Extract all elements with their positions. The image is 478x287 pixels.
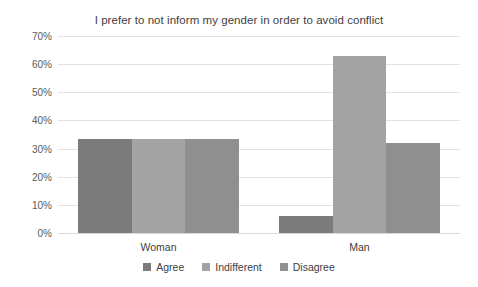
x-axis-label-woman: Woman <box>58 241 259 253</box>
bar-woman-indifferent[interactable] <box>132 139 186 233</box>
y-axis-tick-label: 50% <box>8 87 52 98</box>
bar-man-agree[interactable] <box>279 216 333 233</box>
bar-man-indifferent[interactable] <box>333 56 387 233</box>
legend-label: Disagree <box>293 261 335 273</box>
y-axis-tick-label: 10% <box>8 199 52 210</box>
bar-woman-disagree[interactable] <box>185 139 239 233</box>
x-axis-label-man: Man <box>259 241 460 253</box>
legend-item-agree[interactable]: Agree <box>143 261 184 273</box>
legend-item-disagree[interactable]: Disagree <box>280 261 335 273</box>
plot-area <box>58 36 460 233</box>
legend-label: Agree <box>156 261 184 273</box>
legend-label: Indifferent <box>215 261 262 273</box>
legend-swatch-icon <box>143 263 151 271</box>
legend-swatch-icon <box>202 263 210 271</box>
y-axis-tick-label: 40% <box>8 115 52 126</box>
gridline <box>58 64 460 65</box>
y-axis-tick-label: 30% <box>8 143 52 154</box>
chart-title: I prefer to not inform my gender in orde… <box>0 14 478 26</box>
y-axis-tick-label: 20% <box>8 171 52 182</box>
bar-chart: I prefer to not inform my gender in orde… <box>0 0 478 287</box>
gridline <box>58 233 460 234</box>
legend-swatch-icon <box>280 263 288 271</box>
gridline <box>58 36 460 37</box>
y-axis-tick-label: 60% <box>8 59 52 70</box>
gridline <box>58 120 460 121</box>
chart-legend: AgreeIndifferentDisagree <box>0 261 478 273</box>
legend-item-indifferent[interactable]: Indifferent <box>202 261 262 273</box>
bar-woman-agree[interactable] <box>78 139 132 233</box>
gridline <box>58 92 460 93</box>
y-axis-tick-label: 70% <box>8 31 52 42</box>
bar-man-disagree[interactable] <box>386 143 440 233</box>
y-axis-tick-label: 0% <box>8 228 52 239</box>
